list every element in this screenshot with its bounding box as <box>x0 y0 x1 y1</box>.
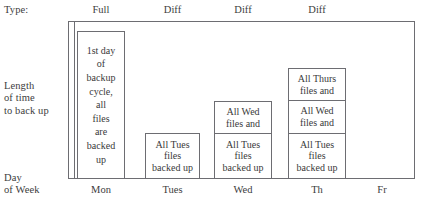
bar-segment-wed-alltues: All Tues files backed up <box>214 133 272 179</box>
type-value-tues: Diff <box>145 4 200 16</box>
y-axis-line <box>74 22 75 179</box>
type-value-wed: Diff <box>214 4 272 16</box>
bar-segment-th-allthurs: All Thurs files and <box>288 68 346 100</box>
day-value-fr: Fr <box>357 184 407 196</box>
bar-segment-tues-alltues: All Tues files backed up <box>145 133 200 179</box>
y-axis-label: Length of time to back up <box>4 80 49 117</box>
backup-schedule-diagram: Type: Length of time to back up Day of W… <box>0 0 423 205</box>
day-value-tues: Tues <box>145 184 200 196</box>
day-value-mon: Mon <box>77 184 125 196</box>
day-value-th: Th <box>288 184 346 196</box>
bar-segment-th-alltues: All Tues files backed up <box>288 133 346 179</box>
bar-segment-th-allwed: All Wed files and <box>288 100 346 133</box>
type-value-mon: Full <box>77 4 125 16</box>
bar-column-wed: All Wed files and All Tues files backed … <box>214 101 272 179</box>
day-value-wed: Wed <box>214 184 272 196</box>
bar-segment-mon-full: 1st day of backup cycle, all files are b… <box>77 31 125 179</box>
bar-segment-wed-allwed: All Wed files and <box>214 101 272 133</box>
bar-column-th: All Thurs files and All Wed files and Al… <box>288 68 346 179</box>
bar-column-mon: 1st day of backup cycle, all files are b… <box>77 31 125 179</box>
bar-column-tues: All Tues files backed up <box>145 133 200 179</box>
type-row-label: Type: <box>4 4 28 16</box>
type-value-th: Diff <box>288 4 346 16</box>
x-axis-label: Day of Week <box>4 172 40 197</box>
